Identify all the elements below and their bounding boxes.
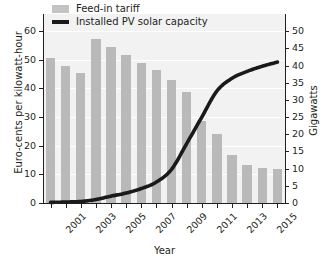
x-axis-tick bbox=[187, 204, 188, 208]
right-axis-tick-label: 5 bbox=[292, 181, 316, 191]
left-axis-tick bbox=[39, 146, 43, 147]
x-axis-tick bbox=[81, 204, 82, 208]
left-axis-tick-label: 0 bbox=[12, 198, 36, 208]
right-axis-tick bbox=[285, 31, 289, 32]
left-axis-tick bbox=[39, 31, 43, 32]
left-axis-tick bbox=[39, 117, 43, 118]
right-axis-tick-label: 50 bbox=[292, 26, 316, 36]
x-axis-tick-label: 2005 bbox=[124, 211, 148, 235]
bottom-axis-line bbox=[43, 203, 286, 204]
x-axis-tick bbox=[217, 204, 218, 208]
right-axis-line bbox=[285, 14, 286, 204]
x-axis-tick-label: 2007 bbox=[154, 211, 178, 235]
x-axis-title: Year bbox=[43, 245, 286, 256]
x-axis-tick bbox=[247, 204, 248, 208]
line-swatch-icon bbox=[52, 20, 69, 24]
right-axis-tick bbox=[285, 134, 289, 135]
left-axis-tick bbox=[39, 88, 43, 89]
chart-legend: Feed-in tariff Installed PV solar capaci… bbox=[52, 3, 208, 28]
right-axis-tick-label: 0 bbox=[292, 198, 316, 208]
x-axis-tick bbox=[202, 204, 203, 208]
x-axis-tick bbox=[232, 204, 233, 208]
x-axis-tick bbox=[156, 204, 157, 208]
chart-figure: 0102030405060 05101520253035404550 20012… bbox=[0, 0, 327, 264]
x-axis-tick-label: 2003 bbox=[94, 211, 118, 235]
left-axis-tick bbox=[39, 60, 43, 61]
legend-item-feed-in-tariff: Feed-in tariff bbox=[52, 3, 208, 16]
left-axis-tick bbox=[39, 174, 43, 175]
x-axis-tick bbox=[277, 204, 278, 208]
right-axis-tick bbox=[285, 66, 289, 67]
left-axis-line bbox=[43, 14, 44, 204]
line-series-installed-pv-solar-capacity bbox=[43, 14, 285, 203]
legend-label-installed-pv-solar-capacity: Installed PV solar capacity bbox=[76, 16, 208, 29]
right-axis-tick bbox=[285, 100, 289, 101]
x-axis-tick-label: 2015 bbox=[275, 211, 299, 235]
right-axis-tick bbox=[285, 83, 289, 84]
right-axis-tick bbox=[285, 169, 289, 170]
x-axis-tick bbox=[66, 204, 67, 208]
x-axis-tick bbox=[141, 204, 142, 208]
legend-label-feed-in-tariff: Feed-in tariff bbox=[76, 3, 140, 16]
plot-area bbox=[43, 14, 285, 203]
right-axis-tick bbox=[285, 151, 289, 152]
x-axis-tick-label: 2011 bbox=[215, 211, 239, 235]
x-axis-tick bbox=[126, 204, 127, 208]
right-axis-title: Gigawatts bbox=[308, 51, 319, 171]
x-axis-tick bbox=[262, 204, 263, 208]
legend-item-installed-pv-solar-capacity: Installed PV solar capacity bbox=[52, 16, 208, 29]
x-axis-tick bbox=[96, 204, 97, 208]
x-axis-tick-label: 2009 bbox=[185, 211, 209, 235]
x-axis-tick bbox=[111, 204, 112, 208]
bar-swatch-icon bbox=[52, 5, 69, 13]
left-axis-tick bbox=[39, 203, 43, 204]
x-axis-tick-label: 2013 bbox=[245, 211, 269, 235]
right-axis-tick bbox=[285, 117, 289, 118]
x-axis-tick-label: 2001 bbox=[64, 211, 88, 235]
x-axis-tick bbox=[51, 204, 52, 208]
left-axis-title: Euro-cents per kilowatt-hour bbox=[13, 13, 24, 193]
right-axis-tick bbox=[285, 48, 289, 49]
x-axis-tick bbox=[172, 204, 173, 208]
right-axis-tick bbox=[285, 203, 289, 204]
right-axis-tick bbox=[285, 186, 289, 187]
